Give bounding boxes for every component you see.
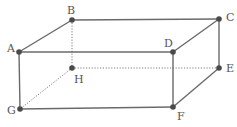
vertex-label-d: D bbox=[164, 37, 173, 50]
edge-ag bbox=[19, 52, 20, 109]
edge-fe bbox=[173, 68, 219, 107]
vertex-label-e: E bbox=[226, 62, 234, 75]
edge-cd bbox=[173, 19, 219, 52]
vertex-g-dot bbox=[17, 106, 23, 112]
hidden-edge-hg bbox=[20, 68, 72, 109]
vertex-h-dot bbox=[69, 65, 75, 71]
vertex-b-dot bbox=[69, 17, 75, 23]
vertex-label-c: C bbox=[226, 11, 234, 24]
vertex-label-h: H bbox=[74, 73, 84, 86]
vertex-label-g: G bbox=[7, 104, 16, 117]
vertex-label-a: A bbox=[6, 42, 16, 55]
vertex-labels: ABCDEFGH bbox=[6, 4, 234, 123]
vertex-d-dot bbox=[170, 49, 176, 55]
edge-ab bbox=[19, 20, 72, 52]
vertex-f-dot bbox=[170, 104, 176, 110]
edge-bc bbox=[72, 19, 219, 20]
cuboid-diagram: ABCDEFGH bbox=[0, 0, 237, 127]
vertices bbox=[16, 16, 222, 112]
vertex-c-dot bbox=[216, 16, 222, 22]
edge-gf bbox=[20, 107, 173, 109]
vertex-e-dot bbox=[216, 65, 222, 71]
solid-edges bbox=[19, 19, 219, 109]
vertex-label-b: B bbox=[67, 4, 75, 17]
vertex-a-dot bbox=[16, 49, 22, 55]
vertex-label-f: F bbox=[177, 110, 185, 123]
